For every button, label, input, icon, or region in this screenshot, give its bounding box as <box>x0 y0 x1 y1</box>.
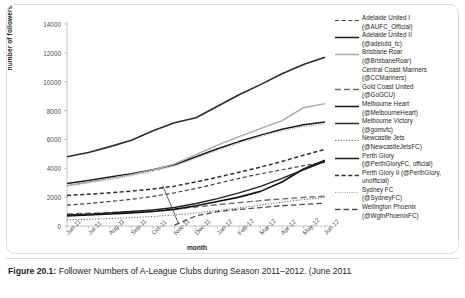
y-axis-tick: 6000 <box>47 136 61 143</box>
legend-item: Gold Coast United(@GoGCU) <box>335 83 459 100</box>
legend-swatch <box>335 136 359 145</box>
legend-item: Brisbane Roar(@BrisbaneRoar) <box>335 48 459 65</box>
y-axis-tick: 2000 <box>47 194 61 201</box>
legend-label-line2: (@WgtnPhoenixFC) <box>362 212 419 221</box>
y-axis-tick: 14000 <box>43 21 61 28</box>
legend-label-line2: (@SydneyFC) <box>362 194 402 203</box>
legend-label-line2: (@GoGCU) <box>362 91 414 100</box>
legend-swatch <box>335 154 359 163</box>
legend-item: Melbourne Victory(@gomvfc) <box>335 117 459 134</box>
legend-item: Melbourne Heart(@MelbourneHeart) <box>335 100 459 117</box>
legend-label: Adelaide United II(@adelutd_fc) <box>362 31 412 48</box>
y-axis-tick: 0 <box>57 223 61 230</box>
legend-label-line1: Wellington Phoenix <box>362 203 419 212</box>
legend-label-line2: (@CCMariners) <box>362 74 427 83</box>
legend-item: Adelaide United I(@AUFC_Official) <box>335 14 459 31</box>
legend-swatch <box>335 171 359 180</box>
legend-label: Melbourne Heart(@MelbourneHeart) <box>362 100 418 117</box>
legend-label-line1: Newcastle Jets <box>362 134 422 143</box>
figure-card: number of followers 02000400060008000100… <box>6 4 459 254</box>
legend-item: Adelaide United II(@adelutd_fc) <box>335 31 459 48</box>
legend-swatch <box>335 16 359 25</box>
legend-label: Sydney FC(@SydneyFC) <box>362 186 402 203</box>
legend-label: Melbourne Victory(@gomvfc) <box>362 117 413 134</box>
legend-label-line1: Adelaide United II <box>362 31 412 40</box>
chart-legend: Adelaide United I(@AUFC_Official)Adelaid… <box>335 14 459 254</box>
legend-label: Gold Coast United(@GoGCU) <box>362 83 414 100</box>
legend-swatch <box>335 68 359 77</box>
y-axis-tick-labels: 02000400060008000100001200014000 <box>21 5 61 245</box>
legend-label-line1: Adelaide United I <box>362 14 413 23</box>
legend-label-line1: Perth Glory II (@PerthGlory, <box>362 169 441 178</box>
legend-label-line2: (@PerthGloryFC, official) <box>362 160 433 169</box>
legend-label: Adelaide United I(@AUFC_Official) <box>362 14 413 31</box>
legend-label-line1: Perth Glory <box>362 152 433 161</box>
figure-page: number of followers 02000400060008000100… <box>0 0 465 298</box>
legend-item: Newcastle Jets(@NewcastleJetsFC) <box>335 134 459 151</box>
legend-label-line2: (@adelutd_fc) <box>362 40 412 49</box>
legend-label-line2: (@BrisbaneRoar) <box>362 57 411 66</box>
y-axis-tick: 4000 <box>47 165 61 172</box>
legend-label-line2: unofficial) <box>362 177 441 186</box>
legend-label: Central Coast Mariners(@CCMariners) <box>362 66 427 83</box>
legend-label-line1: Brisbane Roar <box>362 48 411 57</box>
legend-label: Perth Glory II (@PerthGlory,unofficial) <box>362 169 441 186</box>
legend-label: Newcastle Jets(@NewcastleJetsFC) <box>362 134 422 151</box>
legend-label-line1: Central Coast Mariners <box>362 66 427 75</box>
legend-swatch <box>335 188 359 197</box>
legend-label: Perth Glory(@PerthGloryFC, official) <box>362 152 433 169</box>
legend-swatch <box>335 50 359 59</box>
legend-label-line1: Melbourne Victory <box>362 117 413 126</box>
caption-label: Figure 20.1: <box>8 266 56 276</box>
legend-item: Sydney FC(@SydneyFC) <box>335 186 459 203</box>
caption-text: Follower Numbers of A-League Clubs durin… <box>56 266 351 276</box>
series-line <box>67 57 325 157</box>
legend-item: Wellington Phoenix(@WgtnPhoenixFC) <box>335 203 459 220</box>
caption-divider <box>6 258 459 259</box>
legend-swatch <box>335 85 359 94</box>
y-axis-tick: 12000 <box>43 49 61 56</box>
legend-item: Perth Glory II (@PerthGlory,unofficial) <box>335 169 459 186</box>
legend-label-line2: (@gomvfc) <box>362 126 413 135</box>
y-axis-tick: 8000 <box>47 107 61 114</box>
legend-label-line2: (@NewcastleJetsFC) <box>362 143 422 152</box>
series-leader-line <box>163 186 179 225</box>
legend-label: Wellington Phoenix(@WgtnPhoenixFC) <box>362 203 419 220</box>
legend-item: Central Coast Mariners(@CCMariners) <box>335 66 459 83</box>
legend-label-line1: Sydney FC <box>362 186 402 195</box>
legend-label-line2: (@MelbourneHeart) <box>362 109 418 118</box>
legend-label-line2: (@AUFC_Official) <box>362 23 413 32</box>
legend-swatch <box>335 205 359 214</box>
legend-swatch <box>335 102 359 111</box>
legend-label-line1: Gold Coast United <box>362 83 414 92</box>
series-line <box>67 197 325 219</box>
legend-label: Brisbane Roar(@BrisbaneRoar) <box>362 48 411 65</box>
chart-plot-area: number of followers 02000400060008000100… <box>7 5 337 254</box>
legend-swatch <box>335 119 359 128</box>
x-axis-title: month <box>67 244 327 251</box>
series-line <box>67 122 325 183</box>
legend-swatch <box>335 33 359 42</box>
figure-caption: Figure 20.1: Follower Numbers of A-Leagu… <box>8 266 460 277</box>
series-line <box>67 104 325 186</box>
y-axis-title: number of followers <box>6 4 13 83</box>
legend-item: Perth Glory(@PerthGloryFC, official) <box>335 152 459 169</box>
legend-label-line1: Melbourne Heart <box>362 100 418 109</box>
y-axis-tick: 10000 <box>43 78 61 85</box>
